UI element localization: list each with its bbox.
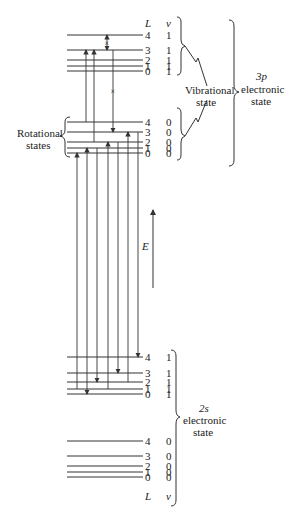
- upper-state-label-3: state: [251, 95, 271, 107]
- lower-state-label-3: state: [193, 426, 213, 438]
- vibrational-label-2: state: [196, 96, 216, 108]
- level-L-label: 0: [145, 65, 151, 77]
- level-v-label: 1: [166, 388, 172, 400]
- rotational-label-2: states: [26, 139, 50, 151]
- level-L-label: 4: [145, 435, 151, 447]
- level-L-label: 4: [145, 351, 151, 363]
- level-v-label: 1: [166, 65, 172, 77]
- energy-level-diagram: L v 413121110140302010004131211101403020…: [0, 0, 295, 526]
- forbidden-mark-icon: ×: [111, 87, 116, 96]
- lower-state-label-1: 2s: [199, 402, 209, 414]
- level-v-label: 0: [166, 435, 172, 447]
- forbidden-mark-icon: ×: [105, 39, 110, 48]
- rotational-label-1: Rotational: [17, 127, 63, 139]
- level-L-label: 0: [145, 471, 151, 483]
- brace-3p-v0: [177, 108, 185, 160]
- transition-arrows: ××: [77, 35, 138, 394]
- energy-axis-label: E: [141, 240, 149, 252]
- level-v-label: 0: [166, 471, 172, 483]
- zigzag-connector-upper: [185, 46, 207, 86]
- level-L-label: 0: [145, 388, 151, 400]
- brace-3p-v1: [177, 17, 185, 75]
- vibrational-label-1: Vibrational: [185, 84, 234, 96]
- level-v-label: 1: [166, 29, 172, 41]
- column-header-v-bottom: v: [166, 490, 171, 502]
- level-v-label: 0: [166, 147, 172, 159]
- energy-levels: 4131211101403020100041312111014030201000: [67, 29, 172, 483]
- upper-state-label-2: electronic: [241, 83, 284, 95]
- level-v-label: 1: [166, 351, 172, 363]
- column-header-L-bottom: L: [144, 490, 151, 502]
- lower-state-label-2: electronic: [183, 414, 226, 426]
- column-header-v-top: v: [166, 17, 171, 29]
- column-header-L-top: L: [144, 17, 151, 29]
- level-L-label: 0: [145, 147, 151, 159]
- brace-2s-electronic: [171, 350, 180, 506]
- level-L-label: 4: [145, 29, 151, 41]
- upper-state-label-1: 3p: [255, 70, 268, 82]
